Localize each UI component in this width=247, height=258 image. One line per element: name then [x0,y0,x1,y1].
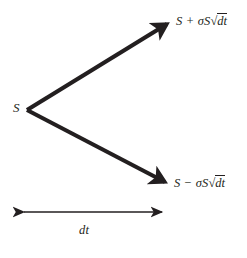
diagram-canvas: S S + σS√dt S − σS√dt dt [0,0,247,258]
up-branch-arrow [27,24,167,110]
up-node-radicand: dt [217,13,227,28]
down-node-radicand: dt [215,175,225,190]
sqrt-icon: √dt [211,15,228,28]
origin-node-label: S [13,101,20,114]
down-node-label-prefix: S − σS [174,176,209,190]
up-node-label-prefix: S + σS [176,14,211,28]
sqrt-icon: √dt [209,177,226,190]
down-node-label: S − σS√dt [174,177,225,190]
down-branch-arrow [27,110,165,182]
binomial-tree-graphic [0,0,247,258]
up-node-label: S + σS√dt [176,15,227,28]
time-interval-label: dt [79,224,89,237]
